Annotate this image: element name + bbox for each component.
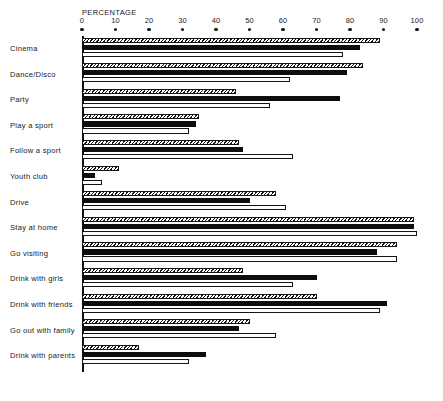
- bar-stack: [82, 266, 422, 291]
- category-label: Go visiting: [10, 249, 48, 258]
- x-axis-tick-label: 0: [67, 17, 97, 25]
- bar-group: Follow a sport: [0, 138, 443, 163]
- bar-stack: [82, 215, 422, 240]
- category-label: Drive: [10, 198, 29, 207]
- bar: [82, 121, 196, 126]
- plot-area: CinemaDance/DiscoPartyPlay a sportFollow…: [0, 36, 443, 396]
- bar-group: Go visiting: [0, 241, 443, 266]
- x-axis-tick-marker-icon: [248, 28, 251, 31]
- bar: [82, 128, 189, 133]
- x-axis-tick-label: 60: [268, 17, 298, 25]
- x-axis-tick-label: 80: [335, 17, 365, 25]
- x-axis-tick-label: 40: [201, 17, 231, 25]
- category-label: Drink with parents: [10, 351, 75, 360]
- x-axis-tick-label: 90: [369, 17, 399, 25]
- x-axis-tick-marker-icon: [147, 28, 150, 31]
- bar: [82, 359, 189, 364]
- bar: [82, 256, 397, 261]
- bar: [82, 89, 236, 94]
- bar: [82, 268, 243, 273]
- bar: [82, 38, 380, 43]
- bar: [82, 198, 250, 203]
- bar-stack: [82, 292, 422, 317]
- bar: [82, 333, 276, 338]
- bar-stack: [82, 241, 422, 266]
- bar: [82, 96, 340, 101]
- category-label: Go out with family: [10, 326, 75, 335]
- bar-group: Go out with family: [0, 318, 443, 343]
- bar: [82, 224, 414, 229]
- x-axis-ticks: 0102030405060708090100: [0, 0, 443, 36]
- category-label: Play a sport: [10, 121, 53, 130]
- x-axis-tick: 0: [67, 17, 97, 31]
- x-axis-tick-marker-icon: [181, 28, 184, 31]
- bar-stack: [82, 113, 422, 138]
- x-axis-tick-marker-icon: [114, 28, 117, 31]
- bar-group: Party: [0, 87, 443, 112]
- bar: [82, 191, 276, 196]
- bar-stack: [82, 138, 422, 163]
- bar-stack: [82, 164, 422, 189]
- category-label: Drink with girls: [10, 274, 63, 283]
- x-axis-tick: 10: [101, 17, 131, 31]
- bar: [82, 180, 102, 185]
- x-axis-tick-marker-icon: [80, 28, 83, 31]
- bar: [82, 70, 347, 75]
- bar: [82, 166, 119, 171]
- x-axis-tick: 50: [235, 17, 265, 31]
- x-axis-tick-label: 50: [235, 17, 265, 25]
- bar: [82, 345, 139, 350]
- bar-stack: [82, 87, 422, 112]
- bar-stack: [82, 190, 422, 215]
- bar-group: Drink with girls: [0, 266, 443, 291]
- x-axis-tick: 60: [268, 17, 298, 31]
- x-axis-tick-marker-icon: [214, 28, 217, 31]
- bar: [82, 275, 317, 280]
- bar-stack: [82, 318, 422, 343]
- x-axis-tick-marker-icon: [382, 28, 385, 31]
- x-axis-tick: 70: [302, 17, 332, 31]
- bar: [82, 242, 397, 247]
- bar: [82, 140, 239, 145]
- bar: [82, 217, 414, 222]
- bar: [82, 114, 199, 119]
- x-axis-tick: 40: [201, 17, 231, 31]
- bar: [82, 63, 363, 68]
- bar-group: Dance/Disco: [0, 62, 443, 87]
- x-axis-tick: 30: [168, 17, 198, 31]
- bar: [82, 282, 293, 287]
- category-label: Follow a sport: [10, 146, 61, 155]
- bar: [82, 45, 360, 50]
- x-axis-tick-label: 30: [168, 17, 198, 25]
- bar-group: Drive: [0, 190, 443, 215]
- bar: [82, 249, 377, 254]
- category-label: Drink with friends: [10, 300, 73, 309]
- bar-group: Youth club: [0, 164, 443, 189]
- x-axis-tick: 90: [369, 17, 399, 31]
- bar: [82, 52, 343, 57]
- bar: [82, 326, 239, 331]
- bar-stack: [82, 62, 422, 87]
- bar: [82, 103, 270, 108]
- bar: [82, 308, 380, 313]
- bar: [82, 77, 290, 82]
- x-axis-tick-marker-icon: [348, 28, 351, 31]
- category-label: Youth club: [10, 172, 48, 181]
- bar: [82, 154, 293, 159]
- x-axis-tick: 100: [402, 17, 432, 31]
- category-label: Party: [10, 95, 29, 104]
- x-axis-tick-marker-icon: [415, 28, 418, 31]
- x-axis-tick-label: 20: [134, 17, 164, 25]
- bar: [82, 147, 243, 152]
- category-label: Cinema: [10, 44, 38, 53]
- x-axis-tick-label: 100: [402, 17, 432, 25]
- bar-group: Drink with friends: [0, 292, 443, 317]
- x-axis-tick: 20: [134, 17, 164, 31]
- x-axis-tick-marker-icon: [315, 28, 318, 31]
- x-axis-tick-label: 70: [302, 17, 332, 25]
- bar-group: Cinema: [0, 36, 443, 61]
- horizontal-bar-chart: PERCENTAGE 0102030405060708090100 Cinema…: [0, 0, 443, 401]
- bar: [82, 231, 417, 236]
- bar-stack: [82, 36, 422, 61]
- category-label: Dance/Disco: [10, 70, 56, 79]
